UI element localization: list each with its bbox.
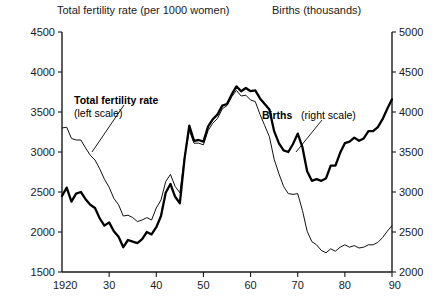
bottom-tick-label: 30 [103,279,115,291]
bottom-tick-label: 60 [244,279,256,291]
bottom-tick-label: 50 [197,279,209,291]
right-tick-label: 4000 [399,106,423,118]
right-tick-label: 5000 [399,26,423,38]
fertility-births-chart: Total fertility rate (per 1000 women) Bi… [0,0,436,305]
bottom-tick-label: 80 [339,279,351,291]
fertility-annotation-scale: (left scale) [74,107,122,119]
left-tick-label: 3500 [31,106,55,118]
births-leader-line [296,120,322,152]
fertility-annotation-bold: Total fertility rate [74,94,159,106]
right-tick-label: 2000 [399,266,423,278]
left-tick-label: 1500 [31,266,55,278]
right-tick-label: 4500 [399,66,423,78]
bottom-tick-label: 40 [150,279,162,291]
left-tick-label: 3000 [31,146,55,158]
bottom-tick-label: 70 [292,279,304,291]
bottom-tick-label: 1920 [53,279,77,291]
births-annotation-bold: Births [262,109,292,121]
left-tick-label: 2500 [31,186,55,198]
left-tick-label: 4000 [31,66,55,78]
plot-svg: 1500200025003000350040004500 20002500300… [0,0,436,305]
left-axis-ticks: 1500200025003000350040004500 [31,26,62,278]
right-tick-label: 3000 [399,186,423,198]
left-tick-label: 4500 [31,26,55,38]
bottom-axis-ticks: 192030405060708090 [53,272,401,291]
bottom-tick-label: 90 [389,279,401,291]
right-tick-label: 2500 [399,226,423,238]
right-axis-ticks: 2000250030003500400045005000 [392,26,423,278]
births-annotation-scale: (right scale) [301,109,356,121]
right-tick-label: 3500 [399,146,423,158]
left-tick-label: 2000 [31,226,55,238]
